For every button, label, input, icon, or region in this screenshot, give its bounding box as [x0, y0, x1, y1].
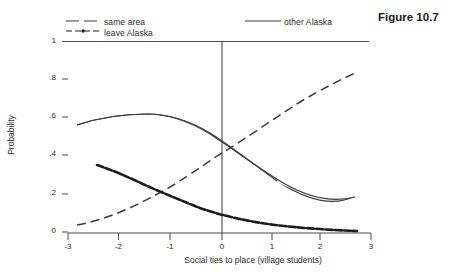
curve-leave-alaska-overlay	[97, 165, 357, 231]
legend-label-leave-alaska: leave Alaska	[104, 28, 153, 38]
x-axis-ticks	[68, 233, 371, 240]
y-axis-ticks	[62, 42, 68, 233]
x-tick-label-2: 2	[312, 242, 328, 251]
y-tick-label-0-8: .8	[40, 73, 56, 82]
curve-other-alaska	[77, 114, 355, 201]
figure-title: Figure 10.7	[378, 11, 439, 23]
x-tick-label-0: 0	[214, 242, 230, 251]
figure-container: Figure 10.7 same area leave Alaska other…	[0, 0, 453, 274]
y-tick-label-0-2: .2	[40, 188, 56, 197]
y-tick-label-0-6: .6	[40, 111, 56, 120]
x-axis-title: Social ties to place (village students)	[133, 255, 373, 265]
x-tick-label-minus-3: -3	[60, 242, 76, 251]
y-axis-title: Probability	[6, 100, 16, 170]
x-tick-label-3: 3	[363, 242, 379, 251]
legend-label-same-area: same area	[104, 17, 145, 27]
y-tick-label-0: 0	[40, 226, 56, 235]
curve-leave-alaska	[97, 165, 357, 231]
legend-label-other-alaska: other Alaska	[284, 17, 332, 27]
curve-same-area	[77, 73, 355, 225]
x-tick-label-minus-1: -1	[162, 242, 178, 251]
y-tick-label-0-4: .4	[40, 149, 56, 158]
x-tick-label-minus-2: -2	[111, 242, 127, 251]
curve-other-alaska-tail	[277, 181, 355, 197]
x-tick-label-1: 1	[264, 242, 280, 251]
y-tick-label-1: 1	[40, 36, 56, 45]
chart-canvas	[0, 0, 453, 274]
legend-swatch-leave-alaska-dot	[81, 29, 84, 32]
